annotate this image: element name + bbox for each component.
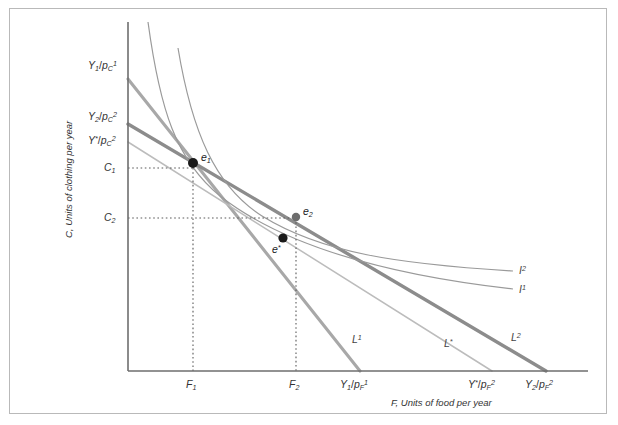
- y-tick-label-C1: C1: [104, 162, 116, 175]
- y-intercept-label-Y1-pC1: Y1/pC1: [88, 60, 117, 73]
- y-intercept-label-Y2-pC2: Y2/pC2: [88, 111, 117, 124]
- budget-line-label-L1: L1: [352, 334, 362, 345]
- Lstar-sup: *: [450, 338, 453, 346]
- x-int-0-densup: 1: [364, 379, 368, 387]
- y-int-1-densup: 2: [113, 111, 117, 119]
- point-estar: [278, 233, 287, 242]
- y-int-2-num: Y: [88, 134, 95, 146]
- figure-root: C, Units of clothing per year F, Units o…: [0, 0, 618, 425]
- e1-sub: 1: [207, 157, 211, 165]
- x-int-0-num: Y: [340, 378, 347, 390]
- e2-sub: 2: [309, 211, 313, 219]
- y-int-0-densup: 1: [113, 60, 117, 68]
- x-int-1-densup: 2: [491, 379, 495, 387]
- y-int-0-num: Y: [88, 59, 95, 71]
- x-intercept-label-Y1-pF1: Y1/pF1: [340, 379, 368, 392]
- y-tick-C2-main: C: [104, 211, 112, 223]
- x-tick-label-F2: F2: [289, 379, 299, 392]
- budget-line-label-Lstar: L*: [444, 338, 453, 349]
- indifference-curve-label-I1: I1: [519, 284, 526, 295]
- y-axis-title: C, Units of clothing per year: [64, 121, 74, 238]
- y-intercept-label-Ystar-pC2: Y*/pC2: [88, 135, 116, 148]
- L1-sup: 1: [358, 334, 362, 342]
- x-tick-F2-sub: 2: [295, 384, 299, 392]
- y-int-2-densup: 2: [112, 135, 116, 143]
- I2-sup: 2: [522, 265, 526, 273]
- budget-line-Lstar: [128, 142, 492, 371]
- L2-sup: 2: [517, 332, 521, 340]
- y-tick-C2-sub: 2: [112, 217, 116, 225]
- point-e2: [292, 213, 300, 221]
- y-tick-C1-main: C: [104, 161, 112, 173]
- indifference-curve-label-I2: I2: [519, 265, 526, 276]
- indifference-curve-I2: [178, 48, 513, 271]
- estar-sup: *: [278, 244, 281, 252]
- x-int-2-num: Y: [525, 378, 532, 390]
- budget-line-label-L2: L2: [511, 332, 521, 343]
- y-tick-C1-sub: 1: [112, 167, 116, 175]
- x-intercept-label-Y2-pF2: Y2/pF2: [525, 379, 553, 392]
- x-tick-label-F1: F1: [186, 379, 196, 392]
- point-label-estar: e*: [272, 244, 281, 255]
- y-tick-label-C2: C2: [104, 212, 116, 225]
- point-label-e2: e2: [303, 206, 313, 219]
- I1-sup: 1: [522, 284, 526, 292]
- x-int-2-densup: 2: [549, 379, 553, 387]
- x-tick-F1-sub: 1: [192, 384, 196, 392]
- x-int-1-num: Y: [468, 378, 475, 390]
- budget-line-L1: [128, 79, 360, 371]
- y-int-1-num: Y: [88, 110, 95, 122]
- point-label-e1: e1: [201, 152, 211, 165]
- x-axis-title: F, Units of food per year: [391, 398, 492, 408]
- x-intercept-label-Ystar-pF2: Y*/pF2: [468, 379, 495, 392]
- point-e1: [188, 158, 198, 168]
